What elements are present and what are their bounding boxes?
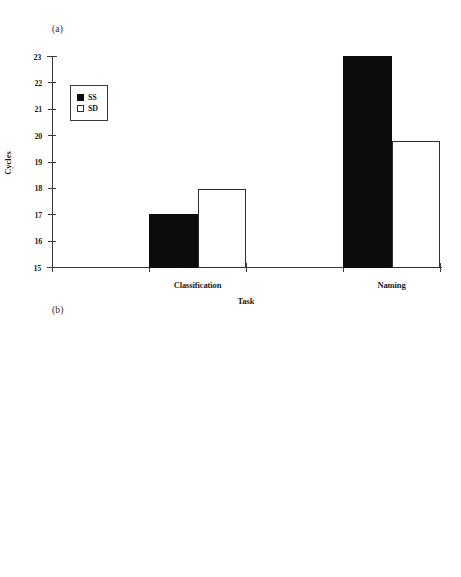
- y-tick-label: 20: [34, 131, 42, 140]
- hollow-square-icon: [77, 105, 84, 112]
- x-tick: [246, 263, 247, 272]
- bar-sd-classification: [198, 189, 247, 268]
- bar-ss-classification: [149, 214, 198, 268]
- y-tick: 22: [48, 82, 56, 83]
- y-tick-label: 18: [34, 184, 42, 193]
- legend-item-ss-a: SS: [77, 93, 98, 102]
- y-tick-label: 22: [34, 78, 42, 87]
- y-tick-label: 17: [34, 210, 42, 219]
- legend-label-sd-a: SD: [88, 104, 98, 113]
- y-tick-label: 23: [33, 52, 41, 61]
- bar-ss-naming: [343, 56, 392, 268]
- x-tick: [52, 263, 53, 272]
- x-tick: [440, 263, 441, 272]
- y-tick-label: 21: [34, 105, 42, 114]
- y-tick-label: 16: [34, 237, 42, 246]
- y-tick: 20: [48, 135, 56, 136]
- panel-label-b: (b): [52, 305, 64, 315]
- y-axis-line-a: [52, 57, 53, 268]
- bar-sd-naming: [392, 141, 441, 268]
- legend-a: SS SD: [70, 85, 108, 121]
- y-axis-title-a: Cycles: [3, 151, 13, 175]
- legend-item-sd-a: SD: [77, 104, 98, 113]
- y-tick-label: 19: [34, 158, 42, 167]
- chart-panel-b: (b) RT (ms) Task 60065070075080085090095…: [0, 289, 461, 577]
- y-tick: 21: [48, 109, 56, 110]
- y-tick-label: 15: [33, 263, 41, 272]
- y-tick: 18: [48, 188, 56, 189]
- y-tick: 17: [48, 214, 56, 215]
- plot-area-a: Cycles Task 151617181920212223 Classific…: [52, 57, 440, 268]
- y-tick: 23: [47, 56, 57, 57]
- y-tick: 19: [48, 162, 56, 163]
- y-tick: 16: [48, 241, 56, 242]
- panel-label-a: (a): [52, 24, 63, 34]
- filled-square-icon: [77, 94, 84, 101]
- chart-panel-a: (a) Cycles Task 151617181920212223 Class…: [0, 0, 461, 288]
- legend-label-ss-a: SS: [88, 93, 97, 102]
